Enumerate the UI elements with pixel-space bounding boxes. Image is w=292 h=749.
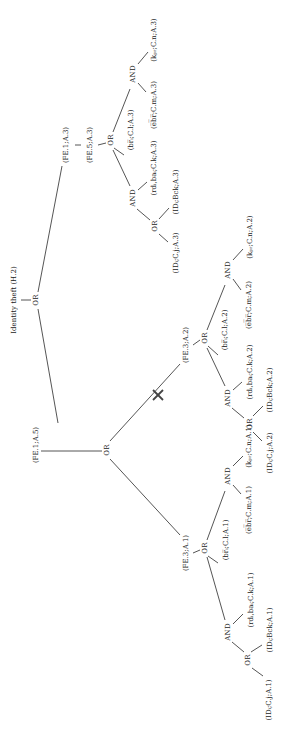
node-fe3a1: (FE.3;A.1) (182, 535, 190, 571)
edge-or3b-idb3 (159, 208, 169, 219)
attack-tree-diagram: Identity theft (H.2)OR(FE.1;A.3)(FE.5;A.… (0, 0, 292, 749)
gate-and2b: AND (224, 389, 232, 408)
edge-and2a-ebr2 (233, 279, 241, 290)
node-k3: (kₚᵣ;C.n;A.3) (150, 18, 158, 61)
gate-and1a: AND (224, 467, 232, 486)
edge-or5-fe3a1 (110, 459, 180, 535)
gate-or5: OR (103, 444, 111, 456)
node-br2: (br̅ᵢ;C.l;A.2) (221, 309, 229, 350)
node-br1: (br̅ᵢ;C.l;A.1) (222, 519, 230, 560)
edge-and3b-or3b (137, 209, 150, 220)
node-idb3: (IDᵢ;Bck;A.3) (172, 169, 180, 214)
tree-nodes: Identity theft (H.2)OR(FE.1;A.3)(FE.5;A.… (10, 18, 274, 720)
node-rdba2: (rdᵢ,baᵢ;C.k;A.2) (246, 344, 254, 399)
node-k2: (kₚᵣ;C.n;A.2) (246, 215, 254, 258)
gate-or3: OR (107, 134, 115, 146)
node-fe3a2: (FE.3;A.2) (182, 327, 190, 363)
edge-and1b-or1b (232, 642, 244, 652)
edge-or1b-idb1 (251, 645, 262, 652)
edge-and1a-k1 (233, 456, 243, 466)
gate-or0: OR (32, 294, 40, 306)
node-idc2: (IDᵢ;C.j;A.2) (266, 432, 274, 473)
edge-and2b-rdba2 (233, 382, 242, 390)
gate-and3b: AND (129, 189, 137, 208)
tree-edges (21, 52, 263, 676)
gate-or1b: OR (244, 654, 252, 666)
gate-and2a: AND (224, 261, 232, 280)
node-root: Identity theft (H.2) (10, 266, 18, 334)
edge-or0-fe1a5 (38, 309, 58, 423)
edge-or1b-idc1 (252, 668, 263, 676)
cut-marks (153, 390, 163, 400)
edge-or3b-idc3 (159, 234, 168, 242)
edge-and3a-k3 (138, 52, 148, 64)
edge-or2b-idc2 (253, 432, 262, 441)
edge-and1b-rdba1 (233, 614, 243, 624)
edge-or2b-idb2 (253, 406, 263, 416)
edge-or3-br3 (114, 148, 124, 155)
node-ebr3: (e̅b̅r̅;C.m;A.3) (148, 81, 158, 129)
edge-and2b-or2b (232, 408, 244, 418)
gate-or2: OR (201, 332, 209, 344)
gate-and3a: AND (129, 65, 137, 84)
edge-and3b-rdba3 (138, 182, 147, 190)
node-fe1a3: (FE.1;A.3) (62, 127, 70, 163)
node-ebr1: (e̅b̅r̅;C.m;A.1) (243, 486, 253, 534)
edge-fe5a3-or3 (98, 143, 106, 145)
node-idb2: (IDᵢ;Bck;A.2) (266, 367, 274, 412)
gate-and1b: AND (224, 623, 232, 642)
node-idb1: (IDᵢ;Bck;A.1) (266, 607, 274, 652)
edge-fe3a1-or1 (193, 550, 200, 553)
edge-or1-and1b (207, 557, 225, 620)
node-rdba3: (rdᵢ,baᵢ;C.k;A.3) (150, 140, 158, 195)
node-fe5a3: (FE.5;A.3) (86, 127, 94, 163)
node-rdba1: (rdᵢ,baᵢ;C.k;A.1) (247, 572, 255, 627)
node-fe1a5: (FE.1;A.5) (32, 427, 40, 463)
gate-or1: OR (201, 542, 209, 554)
node-ebr2: (e̅b̅r̅;C.m;A.2) (243, 281, 253, 329)
node-idc3: (IDᵢ;C.j;A.3) (172, 232, 180, 273)
edge-and3a-ebr3 (138, 83, 146, 92)
gate-or3b: OR (151, 220, 159, 232)
edge-fe3a2-or2 (193, 340, 200, 345)
edge-and1a-ebr1 (233, 485, 241, 494)
edge-and2a-k2 (233, 249, 243, 260)
node-k1: (kₚᵣ;C.n;A.1) (245, 424, 253, 467)
edge-or0-fe1a3 (38, 166, 62, 292)
node-idc1: (IDᵢ;C.j;A.1) (265, 679, 273, 720)
edge-or5-fe3a2 (110, 364, 180, 441)
edge-or3-and3b (113, 150, 130, 186)
node-br3: (br̅ᵢ;C.l;A.3) (127, 109, 135, 150)
cut-x-icon (153, 390, 163, 400)
edge-or1-br1 (208, 556, 218, 563)
